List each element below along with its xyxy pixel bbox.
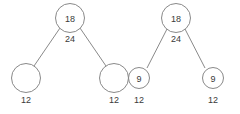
left-tree-edge-to-right-leaf xyxy=(80,28,106,66)
left-tree-leaf-below-label-2: 12 xyxy=(109,95,119,105)
tree-diagram-canvas: 18 24 12 12 18 24 9 12 9 12 xyxy=(0,0,240,114)
left-tree-leaf-below-label-1: 12 xyxy=(21,95,31,105)
left-tree-leaf-node-2[interactable] xyxy=(100,64,129,93)
right-tree-edge-to-right-leaf xyxy=(185,29,205,68)
right-tree-edge-label: 24 xyxy=(171,34,181,44)
right-tree-root-label: 18 xyxy=(171,14,181,24)
tree-diagram-figure: 18 24 12 12 18 24 9 12 9 12 xyxy=(0,0,240,114)
left-tree: 18 24 12 12 xyxy=(12,4,129,106)
right-tree: 18 24 9 12 9 12 xyxy=(129,4,224,106)
right-tree-leaf-below-label-2: 12 xyxy=(208,95,218,105)
left-tree-leaf-node-1[interactable] xyxy=(12,64,41,93)
right-tree-edge-to-left-leaf xyxy=(147,29,167,68)
left-tree-root-label: 18 xyxy=(65,14,75,24)
left-tree-edge-label: 24 xyxy=(65,34,75,44)
right-tree-leaf-label-1: 9 xyxy=(136,74,141,84)
left-tree-edge-to-left-leaf xyxy=(34,28,60,66)
right-tree-leaf-below-label-1: 12 xyxy=(134,95,144,105)
right-tree-leaf-label-2: 9 xyxy=(210,74,215,84)
